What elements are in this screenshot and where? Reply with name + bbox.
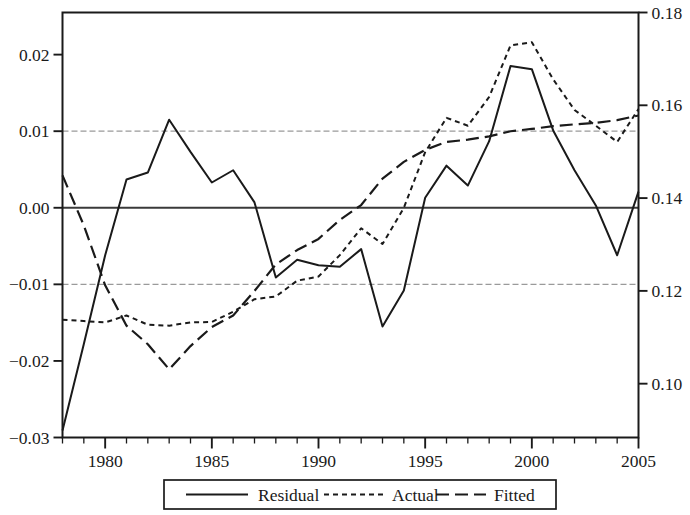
right-tick-label-3: 0.12 (652, 281, 683, 301)
left-tick-label-3: −0.01 (9, 274, 50, 294)
left-tick-label-5: −0.03 (9, 428, 50, 448)
legend-label-residual: Residual (258, 485, 319, 505)
series-lines (63, 42, 639, 430)
series-line-actual (63, 42, 639, 325)
right-axis-ticks (639, 13, 648, 384)
x-axis-ticks (63, 438, 639, 449)
left-axis-ticks (54, 55, 63, 438)
left-tick-label-4: −0.02 (9, 351, 50, 371)
residual-actual-fitted-chart: 198019851990199520002005 0.020.010.00−0.… (0, 0, 690, 515)
gridlines (63, 131, 639, 284)
chart-container: 198019851990199520002005 0.020.010.00−0.… (0, 0, 690, 515)
x-tick-label-1980: 1980 (88, 451, 123, 471)
left-axis-tick-labels: 0.020.010.00−0.01−0.02−0.03 (9, 45, 50, 448)
right-tick-label-1: 0.16 (652, 95, 683, 115)
x-tick-label-1995: 1995 (408, 451, 443, 471)
legend-label-fitted: Fitted (494, 485, 535, 505)
left-tick-label-1: 0.01 (19, 121, 50, 141)
series-line-residual (63, 66, 639, 431)
x-tick-label-1990: 1990 (301, 451, 336, 471)
chart-legend: ResidualActualFitted (164, 480, 556, 509)
x-tick-label-2005: 2005 (621, 451, 656, 471)
x-tick-label-1985: 1985 (194, 451, 229, 471)
right-tick-label-4: 0.10 (652, 374, 683, 394)
legend-label-actual: Actual (392, 485, 439, 505)
right-tick-label-2: 0.14 (652, 188, 683, 208)
left-tick-label-2: 0.00 (19, 198, 50, 218)
x-tick-label-2000: 2000 (514, 451, 549, 471)
right-axis-tick-labels: 0.180.160.140.120.10 (652, 3, 683, 394)
right-tick-label-0: 0.18 (652, 3, 683, 23)
x-axis-tick-labels: 198019851990199520002005 (88, 451, 657, 471)
left-tick-label-0: 0.02 (19, 45, 50, 65)
